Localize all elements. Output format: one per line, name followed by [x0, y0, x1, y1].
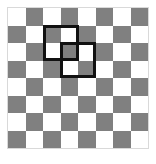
- board-cell-r2-c0: [8, 43, 26, 61]
- board-cell-r4-c3: [61, 78, 79, 96]
- board-cell-r2-c6: [113, 43, 131, 61]
- board-cell-r2-c2: [43, 43, 61, 61]
- board-cell-r4-c0: [8, 78, 26, 96]
- board-cell-r0-c1: [26, 8, 44, 26]
- board-cell-r0-c2: [43, 8, 61, 26]
- board-cell-r3-c2: [43, 61, 61, 79]
- board-cell-r3-c5: [96, 61, 114, 79]
- board-cell-r2-c1: [26, 43, 44, 61]
- board-cell-r3-c7: [131, 61, 149, 79]
- board-cell-r7-c1: [26, 131, 44, 149]
- board-cell-r6-c6: [113, 113, 131, 131]
- board-cell-r5-c4: [78, 96, 96, 114]
- board-cell-r4-c1: [26, 78, 44, 96]
- board-cell-r5-c5: [96, 96, 114, 114]
- board-cell-r6-c2: [43, 113, 61, 131]
- board-cell-r4-c6: [113, 78, 131, 96]
- board-cell-r1-c2: [43, 26, 61, 44]
- board-cell-r1-c5: [96, 26, 114, 44]
- board-cell-r6-c1: [26, 113, 44, 131]
- checkerboard-grid: [8, 8, 148, 148]
- board-cell-r5-c1: [26, 96, 44, 114]
- board-cell-r7-c3: [61, 131, 79, 149]
- board-cell-r2-c7: [131, 43, 149, 61]
- board-cell-r0-c4: [78, 8, 96, 26]
- board-cell-r3-c3: [61, 61, 79, 79]
- board-cell-r4-c7: [131, 78, 149, 96]
- board-cell-r3-c1: [26, 61, 44, 79]
- board-cell-r1-c3: [61, 26, 79, 44]
- checkerboard-figure: [0, 0, 156, 164]
- board-cell-r2-c5: [96, 43, 114, 61]
- board-cell-r1-c1: [26, 26, 44, 44]
- board-cell-r5-c7: [131, 96, 149, 114]
- board-cell-r7-c5: [96, 131, 114, 149]
- board-cell-r4-c5: [96, 78, 114, 96]
- board-cell-r0-c6: [113, 8, 131, 26]
- board-cell-r0-c7: [131, 8, 149, 26]
- board-cell-r5-c0: [8, 96, 26, 114]
- board-cell-r5-c6: [113, 96, 131, 114]
- board-cell-r7-c0: [8, 131, 26, 149]
- board-cell-r1-c4: [78, 26, 96, 44]
- board-cell-r1-c7: [131, 26, 149, 44]
- board-cell-r0-c0: [8, 8, 26, 26]
- board-cell-r1-c0: [8, 26, 26, 44]
- board-cell-r7-c7: [131, 131, 149, 149]
- board-cell-r7-c2: [43, 131, 61, 149]
- board-cell-r2-c3: [61, 43, 79, 61]
- board-cell-r3-c4: [78, 61, 96, 79]
- board-cell-r5-c3: [61, 96, 79, 114]
- board-cell-r4-c4: [78, 78, 96, 96]
- board-cell-r2-c4: [78, 43, 96, 61]
- board-cell-r7-c4: [78, 131, 96, 149]
- board-cell-r3-c0: [8, 61, 26, 79]
- board-cell-r5-c2: [43, 96, 61, 114]
- board-cell-r4-c2: [43, 78, 61, 96]
- board-cell-r6-c5: [96, 113, 114, 131]
- board-cell-r1-c6: [113, 26, 131, 44]
- board-cell-r6-c7: [131, 113, 149, 131]
- board-cell-r0-c3: [61, 8, 79, 26]
- board-cell-r0-c5: [96, 8, 114, 26]
- board-cell-r6-c4: [78, 113, 96, 131]
- board-cell-r3-c6: [113, 61, 131, 79]
- board-cell-r6-c0: [8, 113, 26, 131]
- board-cell-r7-c6: [113, 131, 131, 149]
- board-cell-r6-c3: [61, 113, 79, 131]
